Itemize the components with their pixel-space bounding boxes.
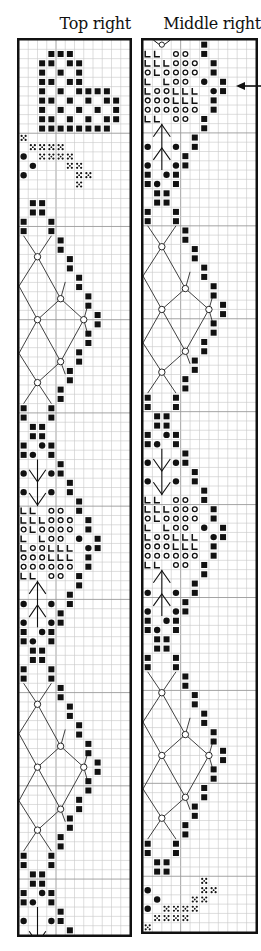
filled-square-icon [58, 461, 64, 467]
lattice-node-icon [57, 743, 63, 749]
filled-square-icon [58, 88, 64, 94]
filled-square-icon [182, 227, 188, 233]
filled-square-icon [95, 312, 101, 318]
filled-dot-icon [30, 163, 36, 169]
filled-square-icon [58, 918, 64, 924]
filled-square-icon [211, 553, 217, 559]
filled-square-icon [76, 722, 82, 728]
filled-dot-icon [163, 432, 169, 438]
lattice-node-icon [57, 806, 63, 812]
filled-square-icon [21, 443, 27, 449]
filled-square-icon [201, 348, 207, 354]
filled-dot-icon [30, 452, 36, 458]
lattice-node-icon [182, 348, 188, 354]
filled-square-icon [95, 536, 101, 542]
filled-square-icon [173, 432, 179, 438]
filled-square-icon [48, 79, 54, 85]
filled-square-icon [95, 545, 101, 551]
filled-square-icon [48, 629, 54, 635]
filled-square-icon [173, 618, 179, 624]
lattice-node-icon [81, 316, 87, 322]
lattice-node-icon [34, 316, 40, 322]
filled-square-icon [76, 107, 82, 113]
filled-square-icon [39, 657, 45, 663]
filled-square-icon [67, 60, 73, 66]
filled-square-icon [67, 265, 73, 271]
filled-square-icon [58, 126, 64, 132]
filled-dot-icon [39, 629, 45, 635]
filled-square-icon [48, 51, 54, 57]
filled-dot-icon [154, 441, 160, 447]
filled-square-icon [58, 107, 64, 113]
filled-square-icon [220, 525, 226, 531]
filled-square-icon [21, 415, 27, 421]
filled-square-icon [182, 237, 188, 243]
filled-square-icon [76, 284, 82, 290]
filled-square-icon [39, 424, 45, 430]
filled-square-icon [76, 70, 82, 76]
lattice-node-icon [34, 827, 40, 833]
filled-square-icon [220, 88, 226, 94]
filled-square-icon [201, 274, 207, 280]
filled-square-icon [76, 582, 82, 588]
filled-dot-icon [163, 172, 169, 178]
filled-dot-icon [173, 162, 179, 168]
filled-dot-icon [145, 460, 151, 466]
filled-square-icon [201, 125, 207, 131]
filled-square-icon [220, 311, 226, 317]
filled-dot-icon [173, 608, 179, 614]
filled-dot-icon [76, 536, 82, 542]
filled-square-icon [201, 571, 207, 577]
filled-square-icon [192, 246, 198, 252]
filled-square-icon [220, 79, 226, 85]
filled-square-icon [182, 376, 188, 382]
filled-square-icon [192, 255, 198, 261]
filled-square-icon [21, 638, 27, 644]
filled-square-icon [201, 497, 207, 503]
filled-square-icon [58, 471, 64, 477]
filled-square-icon [67, 256, 73, 262]
filled-dot-icon [145, 608, 151, 614]
filled-dot-icon [173, 590, 179, 596]
filled-dot-icon [39, 890, 45, 896]
filled-dot-icon [210, 534, 216, 540]
filled-square-icon [164, 636, 170, 642]
filled-square-icon [211, 766, 217, 772]
filled-square-icon [67, 489, 73, 495]
filled-square-icon [145, 218, 151, 224]
filled-square-icon [48, 116, 54, 122]
filled-square-icon [76, 498, 82, 504]
filled-square-icon [173, 441, 179, 447]
filled-square-icon [104, 126, 110, 132]
filled-square-icon [164, 413, 170, 419]
filled-square-icon [220, 757, 226, 763]
filled-square-icon [67, 592, 73, 598]
lattice-node-icon [159, 815, 165, 821]
filled-dot-icon [20, 470, 26, 476]
filled-square-icon [201, 562, 207, 568]
filled-square-icon [48, 452, 54, 458]
lattice-node-icon [159, 306, 165, 312]
filled-square-icon [145, 655, 151, 661]
filled-square-icon [154, 190, 160, 196]
filled-square-icon [104, 88, 110, 94]
filled-square-icon [211, 776, 217, 782]
filled-square-icon [85, 564, 91, 570]
lattice-node-icon [159, 752, 165, 758]
filled-dot-icon [48, 470, 54, 476]
filled-dot-icon [20, 153, 26, 159]
filled-square-icon [39, 70, 45, 76]
filled-dot-icon [145, 162, 151, 168]
filled-square-icon [211, 543, 217, 549]
filled-square-icon [21, 862, 27, 868]
filled-square-icon [211, 320, 217, 326]
filled-square-icon [201, 265, 207, 271]
left-arrow-icon [236, 81, 261, 91]
filled-dot-icon [48, 601, 54, 607]
filled-square-icon [48, 676, 54, 682]
filled-dot-icon [39, 442, 45, 448]
filled-dot-icon [20, 619, 26, 625]
filled-square-icon [154, 423, 160, 429]
filled-square-icon [164, 859, 170, 865]
filled-square-icon [182, 450, 188, 456]
